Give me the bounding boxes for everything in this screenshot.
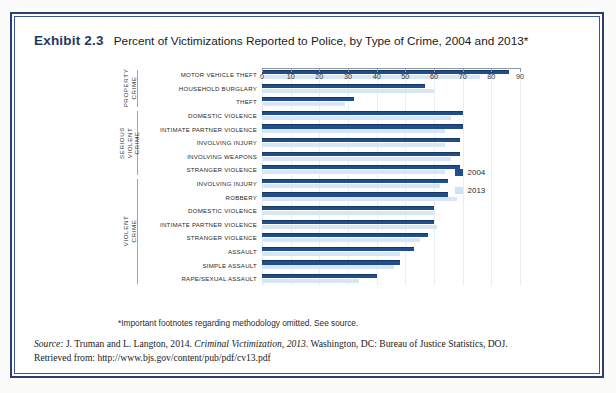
gridline bbox=[463, 204, 464, 218]
gridline bbox=[463, 150, 464, 164]
gridline bbox=[491, 218, 492, 232]
x-axis-tick-label: 40 bbox=[373, 72, 381, 81]
gridline bbox=[491, 245, 492, 259]
bar-pair bbox=[262, 122, 520, 136]
category-label: DOMESTIC VIOLENCE bbox=[138, 207, 262, 214]
gridline bbox=[434, 272, 435, 286]
chart-row: STRANGER VIOLENCE bbox=[138, 231, 520, 245]
x-axis-tick bbox=[377, 68, 378, 72]
bar-2013 bbox=[262, 184, 440, 188]
bar-pair bbox=[262, 109, 520, 123]
gridline bbox=[520, 272, 521, 286]
gridline bbox=[491, 258, 492, 272]
bar-2004 bbox=[262, 111, 463, 115]
bar-pair bbox=[262, 95, 520, 109]
bar-pair bbox=[262, 204, 520, 218]
source-line-1: Source: J. Truman and L. Langton, 2014. … bbox=[34, 337, 590, 350]
chart-legend: 2004 2013 bbox=[455, 168, 525, 204]
gridline bbox=[434, 231, 435, 245]
category-label: INVOLVING INJURY bbox=[138, 139, 262, 146]
exhibit-title: Percent of Victimizations Reported to Po… bbox=[114, 34, 529, 48]
source-work: Criminal Victimization, 2013 bbox=[194, 338, 306, 349]
gridline bbox=[491, 150, 492, 164]
category-label: INTIMATE PARTNER VIOLENCE bbox=[138, 221, 262, 228]
bar-2013 bbox=[262, 225, 437, 229]
x-axis-line bbox=[262, 68, 520, 69]
x-axis-tick-label: 0 bbox=[260, 72, 264, 81]
x-axis-tick-label: 80 bbox=[487, 72, 495, 81]
group-axis-label: PROPERTYCRIME bbox=[122, 69, 137, 108]
gridline bbox=[405, 95, 406, 109]
legend-label-2004: 2004 bbox=[468, 168, 486, 177]
x-axis-tick bbox=[463, 68, 464, 72]
chart-row: INTIMATE PARTNER VIOLENCE bbox=[138, 218, 520, 232]
bar-2004 bbox=[262, 97, 354, 101]
legend-item-2004: 2004 bbox=[455, 168, 525, 177]
gridline bbox=[405, 272, 406, 286]
bar-2004 bbox=[262, 138, 460, 142]
gridline bbox=[377, 272, 378, 286]
bar-2013 bbox=[262, 211, 434, 215]
source-line-2: Retrieved from: http://www.bjs.gov/conte… bbox=[34, 351, 590, 364]
legend-swatch-2013 bbox=[455, 187, 463, 195]
exhibit-page: Exhibit 2.3 Percent of Victimizations Re… bbox=[0, 0, 616, 393]
bar-2004 bbox=[262, 206, 434, 210]
bar-2004 bbox=[262, 124, 463, 128]
gridline bbox=[463, 218, 464, 232]
gridline bbox=[491, 204, 492, 218]
gridline bbox=[463, 136, 464, 150]
group-axis-label-wrap: VIOLENTCRIME bbox=[120, 177, 138, 286]
gridline bbox=[491, 95, 492, 109]
bar-2004 bbox=[262, 247, 414, 251]
gridline bbox=[491, 272, 492, 286]
gridline bbox=[434, 245, 435, 259]
bar-2013 bbox=[262, 170, 445, 174]
gridline bbox=[463, 245, 464, 259]
x-axis-tick bbox=[348, 68, 349, 72]
legend-swatch-2004 bbox=[455, 169, 463, 177]
x-axis-tick bbox=[405, 68, 406, 72]
gridline bbox=[463, 122, 464, 136]
bar-pair bbox=[262, 218, 520, 232]
bar-2013 bbox=[262, 238, 420, 242]
gridline bbox=[520, 109, 521, 123]
category-label: ROBBERY bbox=[138, 194, 262, 201]
chart-row: THEFT bbox=[138, 95, 520, 109]
category-label: THEFT bbox=[138, 98, 262, 105]
x-axis-tick bbox=[434, 68, 435, 72]
gridline bbox=[491, 231, 492, 245]
x-axis-tick bbox=[520, 68, 521, 72]
gridline bbox=[520, 258, 521, 272]
gridline bbox=[520, 231, 521, 245]
gridline bbox=[434, 95, 435, 109]
category-label: SIMPLE ASSAULT bbox=[138, 262, 262, 269]
bar-2013 bbox=[262, 279, 359, 283]
group-axis-label-wrap: SERIOUSVIOLENTCRIME bbox=[120, 109, 138, 177]
gridline bbox=[520, 245, 521, 259]
x-axis-tick bbox=[319, 68, 320, 72]
x-axis-tick-label: 50 bbox=[401, 72, 409, 81]
category-label: DOMESTIC VIOLENCE bbox=[138, 112, 262, 119]
chart-footnote: *Important footnotes regarding methodolo… bbox=[118, 318, 538, 328]
bar-pair bbox=[262, 150, 520, 164]
bar-pair bbox=[262, 136, 520, 150]
gridline bbox=[520, 150, 521, 164]
gridline bbox=[491, 136, 492, 150]
bar-2004 bbox=[262, 220, 434, 224]
gridline bbox=[520, 82, 521, 96]
chart-row: DOMESTIC VIOLENCE bbox=[138, 109, 520, 123]
source-publisher: . Washington, DC: Bureau of Justice Stat… bbox=[306, 338, 508, 349]
bar-pair bbox=[262, 272, 520, 286]
x-axis-tick bbox=[291, 68, 292, 72]
crime-group: SERIOUSVIOLENTCRIMEDOMESTIC VIOLENCEINTI… bbox=[120, 109, 520, 177]
exhibit-title-row: Exhibit 2.3 Percent of Victimizations Re… bbox=[34, 33, 582, 53]
x-axis-tick bbox=[262, 68, 263, 72]
bar-2013 bbox=[262, 252, 400, 256]
gridline bbox=[463, 272, 464, 286]
x-axis-tick-label: 60 bbox=[430, 72, 438, 81]
x-axis-tick-label: 30 bbox=[344, 72, 352, 81]
chart-row: INTIMATE PARTNER VIOLENCE bbox=[138, 122, 520, 136]
bar-2013 bbox=[262, 157, 451, 161]
x-axis-tick-label: 10 bbox=[287, 72, 295, 81]
x-axis-tick-label: 20 bbox=[315, 72, 323, 81]
